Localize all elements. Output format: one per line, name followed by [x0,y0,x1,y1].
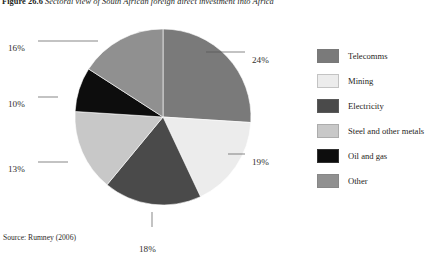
legend-swatch-mining [317,74,339,88]
chart-legend: Telecomms Mining Electricity Steel and o… [317,43,437,193]
pie-label-electricity: 18% [139,244,156,254]
figure-caption: Sectoral view of South African foreign d… [45,0,274,6]
legend-item-mining[interactable]: Mining [317,68,437,93]
legend-label-electricity: Electricity [348,101,384,111]
legend-item-electricity[interactable]: Electricity [317,93,437,118]
pie-label-other: 16% [8,43,25,53]
legend-swatch-steel-and-other-metals [317,124,339,138]
legend-swatch-oil-and-gas [317,149,339,163]
pie-chart-plot-area: 24% 19% 18% 13% 10% 16% [0,12,310,227]
pie-label-telecomms: 24% [252,55,269,65]
legend-label-other: Other [348,176,368,186]
legend-item-other[interactable]: Other [317,168,437,193]
source-note: Source: Rumney (2006) [3,233,76,242]
pie-chart-svg [0,12,310,227]
legend-item-steel-and-other-metals[interactable]: Steel and other metals [317,118,437,143]
legend-swatch-other [317,174,339,188]
legend-swatch-electricity [317,99,339,113]
legend-label-oil-and-gas: Oil and gas [348,151,387,161]
legend-label-telecomms: Telecomms [348,51,388,61]
pie-slice-telecomms[interactable] [163,29,251,123]
pie-label-mining: 19% [252,157,269,167]
figure-number: Figure 26.6 [2,0,43,6]
legend-item-telecomms[interactable]: Telecomms [317,43,437,68]
figure-title: Figure 26.6 Sectoral view of South Afric… [2,0,422,7]
legend-item-oil-and-gas[interactable]: Oil and gas [317,143,437,168]
pie-label-steel-and-other-metals: 13% [8,164,25,174]
legend-label-mining: Mining [348,76,373,86]
legend-label-steel-and-other-metals: Steel and other metals [348,126,424,136]
pie-label-oil-and-gas: 10% [8,99,25,109]
legend-swatch-telecomms [317,49,339,63]
